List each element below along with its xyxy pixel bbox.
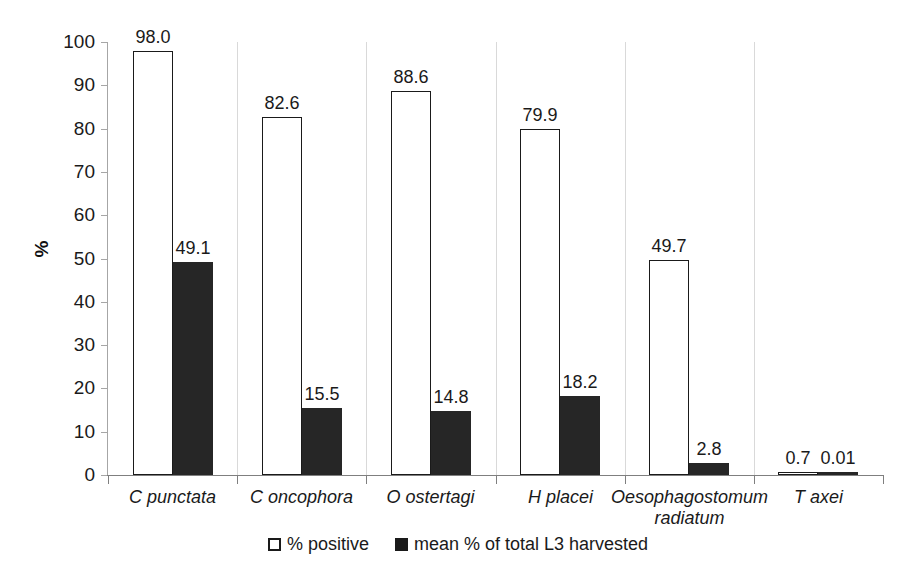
bar-value-label: 79.9: [520, 106, 560, 124]
chart-legend: % positivemean % of total L3 harvested: [0, 534, 916, 555]
bar-value-label: 98.0: [133, 28, 173, 46]
bar-value-label: 49.7: [649, 237, 689, 255]
bar-value-label: 2.8: [689, 440, 729, 458]
legend-item-label: % positive: [287, 534, 369, 555]
x-tick-mark: [496, 476, 497, 484]
x-tick-mark: [625, 476, 626, 484]
bar: [778, 472, 818, 475]
y-tick-label: 100: [50, 32, 95, 51]
bar-value-label: 49.1: [173, 239, 213, 257]
bar: [431, 411, 471, 475]
y-tick-mark: [101, 172, 107, 173]
bar: [262, 117, 302, 475]
bar-value-label: 0.01: [818, 449, 858, 467]
legend-item[interactable]: % positive: [268, 534, 369, 555]
y-tick-label: 0: [50, 465, 95, 484]
category-separator: [496, 42, 497, 475]
open-square-icon: [268, 538, 281, 551]
bar-value-label: 14.8: [431, 388, 471, 406]
category-label-line: T axei: [740, 487, 897, 508]
x-tick-mark: [754, 476, 755, 484]
bar: [649, 260, 689, 475]
y-tick-mark: [101, 302, 107, 303]
category-label: T axei: [740, 487, 897, 508]
x-axis-line: [101, 475, 884, 476]
bar: [173, 262, 213, 475]
bar: [133, 51, 173, 475]
x-tick-mark: [237, 476, 238, 484]
y-tick-label: 90: [50, 75, 95, 94]
bar: [302, 408, 342, 475]
y-tick-mark: [101, 475, 107, 476]
y-tick-label: 20: [50, 378, 95, 397]
bar-value-label: 0.7: [778, 449, 818, 467]
y-tick-mark: [101, 345, 107, 346]
bar: [818, 472, 858, 475]
bar-value-label: 15.5: [302, 385, 342, 403]
legend-item-label: mean % of total L3 harvested: [414, 534, 648, 555]
bar: [391, 91, 431, 475]
y-tick-mark: [101, 85, 107, 86]
y-tick-mark: [101, 388, 107, 389]
category-separator: [754, 42, 755, 475]
y-tick-mark: [101, 215, 107, 216]
y-tick-label: 10: [50, 422, 95, 441]
category-separator: [366, 42, 367, 475]
y-tick-mark: [101, 259, 107, 260]
y-tick-mark: [101, 42, 107, 43]
y-tick-label: 80: [50, 119, 95, 138]
category-separator: [625, 42, 626, 475]
y-tick-label: 70: [50, 162, 95, 181]
filled-square-icon: [395, 538, 408, 551]
y-tick-label: 60: [50, 205, 95, 224]
bar: [520, 129, 560, 475]
bar-value-label: 18.2: [560, 373, 600, 391]
y-tick-label: 30: [50, 335, 95, 354]
y-tick-label: 50: [50, 249, 95, 268]
bar: [560, 396, 600, 475]
x-tick-mark: [366, 476, 367, 484]
category-label-line: radiatum: [611, 508, 768, 529]
x-tick-mark: [108, 476, 109, 484]
bar-chart: % 1009080706050403020100 98.082.688.679.…: [0, 0, 916, 581]
legend-item[interactable]: mean % of total L3 harvested: [395, 534, 648, 555]
y-tick-mark: [101, 432, 107, 433]
bar-value-label: 82.6: [262, 94, 302, 112]
bar-value-label: 88.6: [391, 68, 431, 86]
bar: [689, 463, 729, 475]
x-tick-mark: [883, 476, 884, 484]
y-tick-mark: [101, 129, 107, 130]
category-separator: [237, 42, 238, 475]
y-tick-label: 40: [50, 292, 95, 311]
y-axis-line: [107, 42, 108, 476]
